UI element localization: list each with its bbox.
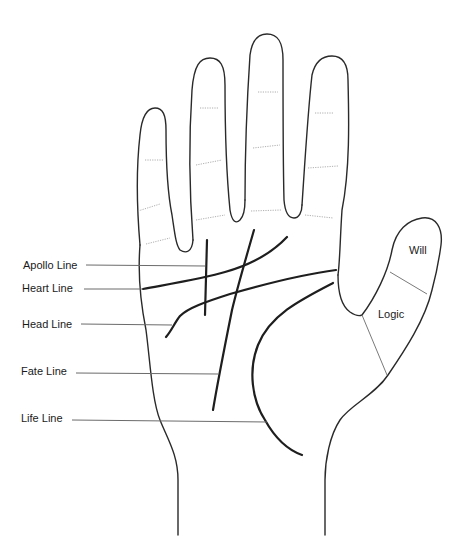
apollo-line-label: Apollo Line xyxy=(23,259,77,271)
thumb-zone-labels: Will Logic xyxy=(378,244,427,320)
will-logic-divider xyxy=(390,272,427,294)
logic-palm-divider xyxy=(362,315,387,375)
head-leader xyxy=(81,324,172,325)
ring-finger xyxy=(190,58,245,240)
heart-line-label: Heart Line xyxy=(22,282,73,294)
logic-zone-label: Logic xyxy=(378,308,405,320)
head-line-label: Head Line xyxy=(22,318,72,330)
middle-finger xyxy=(245,34,302,218)
fate-line xyxy=(213,230,254,410)
fate-leader xyxy=(76,373,218,374)
index-finger xyxy=(302,56,349,275)
thumb xyxy=(325,218,441,535)
life-line xyxy=(252,283,333,455)
life-leader xyxy=(72,420,267,422)
apollo-leader xyxy=(86,265,205,266)
will-zone-label: Will xyxy=(409,244,427,256)
heart-line xyxy=(143,237,287,289)
hand-outline xyxy=(137,34,441,535)
palmistry-diagram: Apollo Line Heart Line Head Line Fate Li… xyxy=(0,0,469,560)
life-line-label: Life Line xyxy=(21,412,63,424)
pinky-finger xyxy=(137,108,193,252)
fate-line-label: Fate Line xyxy=(21,365,67,377)
line-labels: Apollo Line Heart Line Head Line Fate Li… xyxy=(21,259,77,424)
